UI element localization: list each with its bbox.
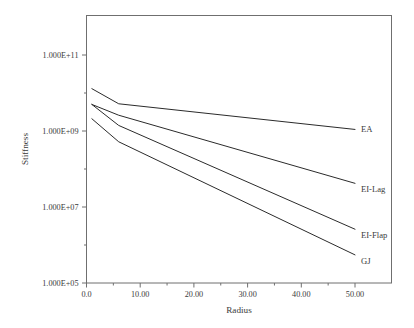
x-tick-label: 50.00 [346, 290, 364, 299]
y-tick-label: 1.000E+07 [42, 203, 78, 212]
y-tick-label: 1.000E+09 [42, 127, 78, 136]
x-tick-label: 0.0 [81, 290, 91, 299]
y-tick-label: 1.000E+05 [42, 279, 78, 288]
series-label-ei-lag: EI-Lag [361, 184, 386, 194]
stiffness-vs-radius-chart: 1.000E+111.000E+091.000E+071.000E+05 0.0… [0, 0, 414, 328]
series-label-ea: EA [361, 124, 373, 134]
y-axis-title: Stiffness [20, 133, 30, 165]
series-label-gj: GJ [361, 256, 371, 266]
x-axis-title: Radius [226, 305, 252, 315]
series-label-ei-flap: EI-Flap [361, 230, 387, 240]
x-tick-label: 10.00 [131, 290, 149, 299]
x-tick-label: 40.00 [292, 290, 310, 299]
x-tick-label: 30.00 [238, 290, 256, 299]
x-tick-label: 20.00 [185, 290, 203, 299]
y-tick-label: 1.000E+11 [43, 51, 79, 60]
chart-figure: 1.000E+111.000E+091.000E+071.000E+05 0.0… [0, 0, 414, 328]
